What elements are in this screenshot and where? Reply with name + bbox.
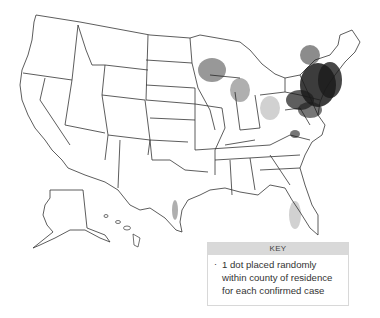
key-line-2: within county of residence: [222, 271, 332, 284]
case-dots: [172, 45, 342, 229]
map-key: KEY · 1 dot placed randomly within count…: [207, 242, 349, 306]
key-description: · 1 dot placed randomly within county of…: [208, 255, 348, 297]
alaska: [33, 190, 110, 248]
key-header: KEY: [208, 243, 348, 255]
key-line-1: 1 dot placed randomly: [222, 258, 316, 271]
dot-icon: ·: [214, 258, 222, 271]
key-line-3: for each confirmed case: [222, 284, 324, 297]
